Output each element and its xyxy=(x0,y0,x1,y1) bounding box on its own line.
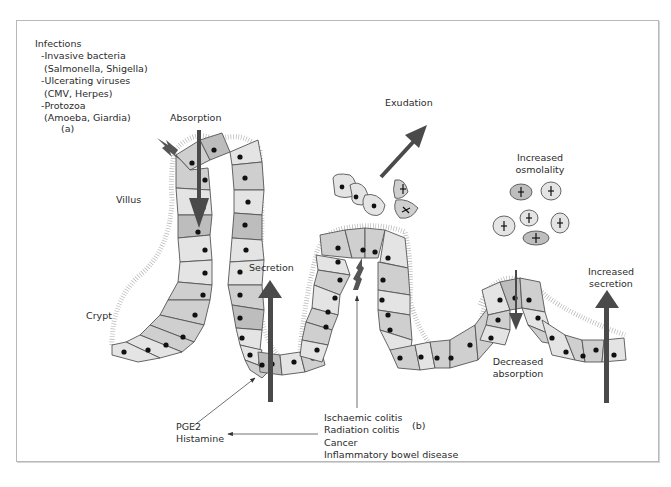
mediators-list: PGE2 Histamine xyxy=(176,421,224,446)
infection-item-detail: (Salmonella, Shigella) xyxy=(35,63,148,75)
lightning-bolt-a-icon xyxy=(157,138,180,160)
histamine-label: Histamine xyxy=(176,433,224,445)
infections-list: Infections -Invasive bacteria (Salmonell… xyxy=(35,38,148,125)
increased-secretion-line1: Increased xyxy=(584,266,638,278)
panel-a-tag: (a) xyxy=(61,123,74,135)
causes-list: Ischaemic colitis Radiation colitis Canc… xyxy=(324,412,458,462)
infection-item-label: -Ulcerating viruses xyxy=(35,75,148,87)
cause-item: Ischaemic colitis xyxy=(324,412,458,424)
increased-secretion-line2: secretion xyxy=(584,278,638,290)
cause-item: Cancer xyxy=(324,437,458,449)
absorption-label: Absorption xyxy=(170,112,221,124)
sloughed-cells xyxy=(333,174,418,218)
cause-item: Radiation colitis xyxy=(324,424,458,436)
increased-osmolality-label: Increased osmolality xyxy=(508,152,572,177)
pge2-pointer-arrow xyxy=(192,378,255,427)
decreased-absorption-line1: Decreased xyxy=(488,356,548,368)
osmotic-cells xyxy=(493,182,569,245)
exudation-arrow xyxy=(381,125,427,177)
increased-osmolality-line2: osmolality xyxy=(508,164,572,176)
infection-item-label: -Invasive bacteria xyxy=(35,50,148,62)
decreased-absorption-line2: absorption xyxy=(488,368,548,380)
villus-epithelium-b xyxy=(300,226,500,370)
lightning-bolt-b-icon xyxy=(353,258,364,290)
decreased-absorption-label: Decreased absorption xyxy=(488,356,548,381)
infection-item-label: -Protozoa xyxy=(35,100,148,112)
pge2-label: PGE2 xyxy=(176,421,224,433)
villus-label: Villus xyxy=(116,194,141,206)
increased-secretion-label: Increased secretion xyxy=(584,266,638,291)
infection-item-detail: (Amoeba, Giardia) xyxy=(35,112,148,124)
secretion-label: Secretion xyxy=(249,262,294,274)
infection-item-detail: (CMV, Herpes) xyxy=(35,88,148,100)
infections-title: Infections xyxy=(35,38,148,50)
increased-osmolality-line1: Increased xyxy=(508,152,572,164)
cause-item: Inflammatory bowel disease xyxy=(324,449,458,461)
villus-epithelium-a xyxy=(112,133,325,378)
exudation-label: Exudation xyxy=(385,97,433,109)
panel-b-tag: (b) xyxy=(412,420,425,432)
crypt-label: Crypt xyxy=(86,310,112,322)
